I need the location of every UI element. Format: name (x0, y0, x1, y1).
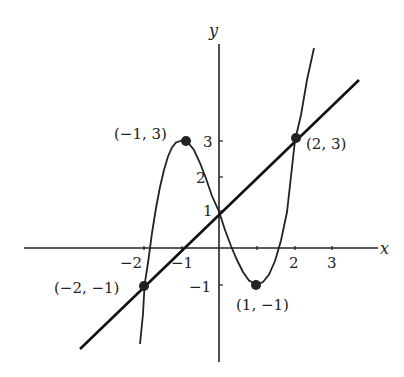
tick-x-neg2: −2 (120, 254, 142, 272)
tick-x-neg1: −1 (171, 254, 193, 272)
tick-x-3: 3 (327, 254, 337, 272)
label-point-max: (−1, 3) (114, 125, 167, 143)
point-min (251, 280, 261, 290)
point-left (139, 281, 149, 291)
x-axis-label: x (380, 239, 389, 258)
label-point-right: (2, 3) (306, 135, 346, 153)
label-point-min: (1, −1) (236, 296, 289, 314)
tick-y-1: 1 (203, 202, 213, 220)
point-max (181, 136, 191, 146)
point-right (291, 133, 301, 143)
label-point-left: (−2, −1) (54, 279, 119, 297)
y-axis-label: y (208, 21, 219, 40)
tick-y-3: 3 (203, 133, 213, 151)
tick-y-neg1: −1 (189, 278, 211, 296)
graph: y x −2 −1 2 3 3 2 1 −1 (−1, 3) (2, 3) (−… (0, 0, 404, 377)
tick-x-2: 2 (289, 254, 299, 272)
tick-y-2: 2 (196, 169, 206, 187)
